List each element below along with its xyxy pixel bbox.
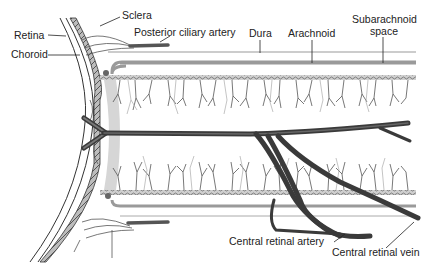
label-sclera: Sclera: [122, 9, 152, 21]
diagram-artwork: [0, 0, 430, 264]
label-subarachnoid-line1: Subarachnoid: [352, 13, 416, 25]
optic-nerve-diagram: Sclera Retina Choroid Posterior ciliary …: [0, 0, 430, 264]
central-retinal-vessels: [84, 118, 418, 237]
label-subarachnoid-space: Subarachnoid space: [352, 13, 416, 37]
pia-band-top: [100, 75, 416, 80]
label-choroid: Choroid: [11, 48, 48, 60]
posterior-ciliary-artery-bottom: [128, 222, 168, 223]
label-posterior-ciliary-artery: Posterior ciliary artery: [134, 26, 236, 38]
label-central-retinal-vein: Central retinal vein: [332, 246, 420, 258]
posterior-ciliary-artery-top: [130, 45, 168, 46]
label-arachnoid: Arachnoid: [288, 27, 335, 39]
label-central-retinal-artery: Central retinal artery: [229, 235, 324, 247]
arachnoid-sheath-bottom: [112, 200, 416, 206]
label-dura: Dura: [249, 27, 272, 39]
label-subarachnoid-line2: space: [352, 25, 416, 37]
label-retina: Retina: [14, 29, 44, 41]
